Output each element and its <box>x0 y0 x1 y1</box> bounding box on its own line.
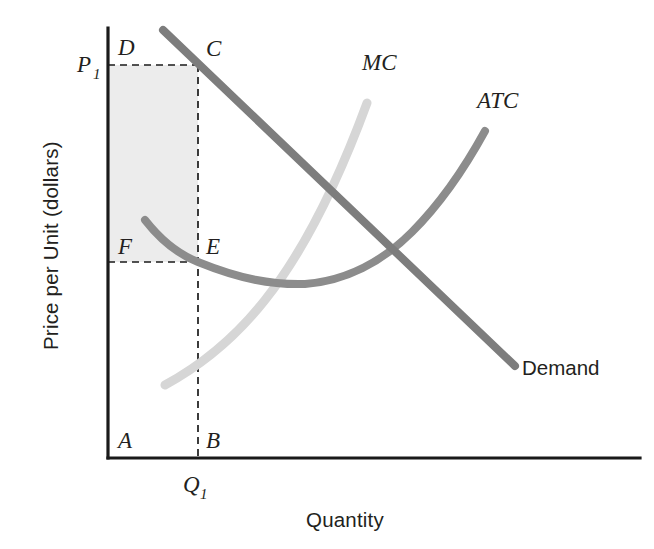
price-axis-tick-label: P 1 <box>76 52 101 82</box>
economics-chart-figure: Price per Unit (dollars) Quantity P 1 Q … <box>0 0 654 549</box>
atc-curve-label: ATC <box>475 88 519 113</box>
point-label-f: F <box>117 234 133 259</box>
chart-canvas: Price per Unit (dollars) Quantity P 1 Q … <box>0 0 654 549</box>
y-axis-title: Price per Unit (dollars) <box>39 141 62 350</box>
point-label-e: E <box>205 234 220 259</box>
point-label-d: D <box>117 35 135 60</box>
price-tick-subscript: 1 <box>93 66 101 82</box>
quantity-axis-tick-label: Q 1 <box>183 472 208 502</box>
quantity-tick-base: Q <box>183 472 200 497</box>
x-axis-title: Quantity <box>306 508 384 531</box>
mc-curve-label: MC <box>361 50 397 75</box>
quantity-tick-subscript: 1 <box>200 486 208 502</box>
demand-curve-label: Demand <box>522 356 600 379</box>
demand-curve <box>163 30 515 366</box>
point-label-a: A <box>116 428 133 453</box>
point-label-c: C <box>206 36 222 61</box>
price-tick-base: P <box>76 52 91 77</box>
point-label-b: B <box>206 428 220 453</box>
